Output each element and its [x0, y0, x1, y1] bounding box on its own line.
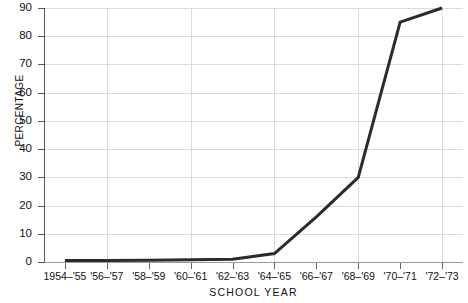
x-tick-mark: [358, 263, 359, 269]
x-tick-mark: [65, 263, 66, 269]
x-tick-label: '56–'57: [90, 270, 123, 282]
x-tick-label: '64–'65: [258, 270, 291, 282]
x-tick-label: '60–'61: [174, 270, 207, 282]
x-tick-mark: [316, 263, 317, 269]
x-tick-label: '70–'71: [384, 270, 417, 282]
x-tick-label: '68–'69: [342, 270, 375, 282]
y-axis-title: PERCENTAGE: [14, 46, 25, 176]
x-tick-mark: [107, 263, 108, 269]
x-tick-label: '66–'67: [300, 270, 333, 282]
x-tick-mark: [274, 263, 275, 269]
y-tick-label: 10: [2, 228, 32, 240]
x-tick-label: '62–'63: [216, 270, 249, 282]
x-tick-label: '58–'59: [132, 270, 165, 282]
x-tick-mark: [400, 263, 401, 269]
x-axis-title: SCHOOL YEAR: [44, 286, 463, 298]
y-tick-mark: [38, 262, 44, 263]
x-tick-mark: [442, 263, 443, 269]
y-tick-label: 20: [2, 200, 32, 212]
y-tick-label: 90: [2, 2, 32, 14]
x-tick-mark: [233, 263, 234, 269]
data-series-line: [44, 8, 463, 262]
y-tick-label: 0: [2, 256, 32, 268]
x-tick-label: 1954–'55: [43, 270, 86, 282]
x-tick-mark: [191, 263, 192, 269]
y-tick-label: 80: [2, 30, 32, 42]
x-tick-mark: [149, 263, 150, 269]
chart-container: 0102030405060708090 1954–'55'56–'57'58–'…: [0, 0, 468, 303]
x-tick-label: '72–'73: [425, 270, 458, 282]
series-polyline: [65, 8, 442, 261]
